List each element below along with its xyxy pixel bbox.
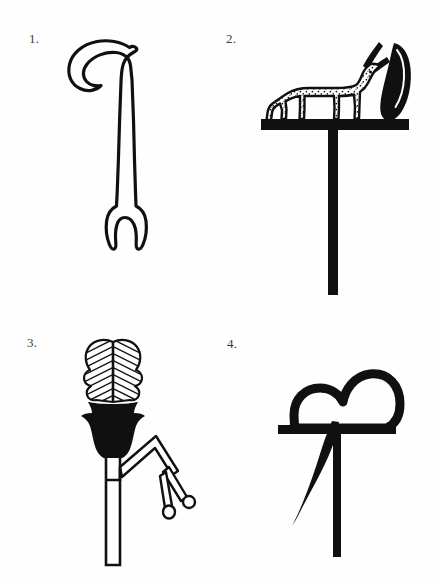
standard-crossbar bbox=[278, 425, 396, 434]
figure-3-label: 3. bbox=[27, 335, 37, 351]
feather-plume bbox=[380, 43, 411, 121]
plume-body bbox=[380, 43, 411, 121]
bud-knob-right bbox=[183, 496, 195, 508]
main-stem bbox=[106, 458, 120, 565]
bud-knob-left bbox=[163, 506, 175, 519]
branch-arm bbox=[120, 436, 195, 519]
figure-2-label: 2. bbox=[226, 31, 236, 47]
standard-crossbar bbox=[261, 119, 409, 130]
streamer-ribbon bbox=[292, 421, 339, 526]
gazelle bbox=[267, 42, 391, 120]
gazelle-silhouette bbox=[267, 64, 381, 120]
figure-2-drawing bbox=[221, 0, 442, 320]
figure-4-double-lobed-emblem-standard bbox=[221, 320, 442, 583]
crook-staff-outline bbox=[69, 41, 147, 249]
emblem-double-lobe bbox=[294, 374, 400, 428]
crook-staff-body-path bbox=[69, 41, 147, 249]
figure-3-drawing bbox=[0, 320, 221, 583]
standard-pole bbox=[333, 434, 341, 557]
gazelle-eye bbox=[369, 71, 372, 74]
figure-4-label: 4. bbox=[227, 336, 237, 352]
calyx-bell bbox=[81, 402, 145, 460]
figure-4-drawing bbox=[221, 320, 442, 583]
figure-2-gazelle-standard bbox=[221, 0, 442, 320]
illustration-plate: 1. bbox=[0, 0, 442, 583]
figure-1-label: 1. bbox=[29, 31, 39, 47]
figure-3-papyrus-fan-standard bbox=[0, 320, 221, 583]
standard-pole bbox=[328, 130, 338, 295]
